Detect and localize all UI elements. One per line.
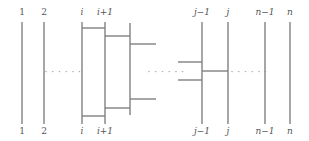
top-strand-label-6: n−1 xyxy=(255,8,274,17)
top-strand-label-1: 2 xyxy=(41,8,47,17)
bottom-strand-label-6: n−1 xyxy=(255,127,274,136)
top-strand-label-2: i xyxy=(81,8,84,17)
top-strand-label-4: j−1 xyxy=(194,8,210,17)
top-strand-label-0: 1 xyxy=(19,8,25,17)
ellipsis-e1: · · · · · · xyxy=(45,68,82,77)
ellipsis-e2: · · · · · · xyxy=(148,68,185,77)
bottom-strand-label-7: n xyxy=(287,127,293,136)
bottom-strand-label-1: 2 xyxy=(41,127,47,136)
bottom-strand-label-0: 1 xyxy=(19,127,25,136)
top-strand-label-5: j xyxy=(227,8,230,17)
bottom-strand-label-3: i+1 xyxy=(97,127,113,136)
bottom-strand-label-4: j−1 xyxy=(194,127,210,136)
top-strand-label-3: i+1 xyxy=(97,8,113,17)
top-strand-label-7: n xyxy=(287,8,293,17)
braid-diagram-figure: 12ii+1j−1jn−1n 12ii+1j−1jn−1n · · · · · … xyxy=(0,0,309,141)
ellipsis-e3: · · · · · · xyxy=(231,68,268,77)
bottom-strand-label-5: j xyxy=(227,127,230,136)
bottom-strand-label-2: i xyxy=(81,127,84,136)
